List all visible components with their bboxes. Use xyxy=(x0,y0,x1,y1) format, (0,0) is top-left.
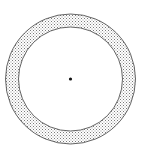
center-point xyxy=(69,77,72,80)
annulus-diagram xyxy=(0,0,147,155)
